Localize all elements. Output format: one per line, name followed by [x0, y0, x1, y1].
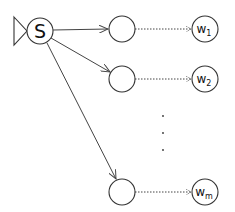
target-label-base: w	[197, 72, 207, 86]
edge-s-m1	[53, 29, 108, 30]
target-node-w1: w1	[192, 16, 218, 42]
middle-node-1	[109, 16, 135, 42]
target-label-sub: m	[205, 192, 213, 201]
target-node-w2: w2	[192, 66, 218, 92]
source-triangle-icon	[14, 17, 27, 45]
target-node-wm: wm	[192, 179, 218, 205]
target-label-base: w	[195, 185, 205, 199]
target-label-sub: 1	[206, 29, 211, 38]
edge-s-m3	[47, 43, 116, 179]
middle-node-2	[109, 66, 135, 92]
edge-s-m2	[51, 38, 110, 72]
target-label-base: w	[197, 22, 207, 36]
vertical-ellipsis-icon	[162, 115, 164, 151]
source-label: S	[34, 20, 46, 42]
middle-node-3	[109, 179, 135, 205]
source-node: S	[27, 18, 53, 44]
target-label-sub: 2	[206, 79, 211, 88]
diagram-canvas: S w1 w2 wm	[0, 0, 235, 212]
